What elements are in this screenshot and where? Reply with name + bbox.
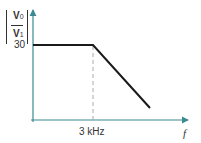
magnitude-curve bbox=[33, 45, 150, 108]
response-plot bbox=[0, 0, 201, 143]
y-tick-label: 30 bbox=[14, 40, 25, 50]
x-axis-label: f bbox=[183, 128, 186, 139]
x-tick-label: 3 kHz bbox=[79, 127, 105, 137]
